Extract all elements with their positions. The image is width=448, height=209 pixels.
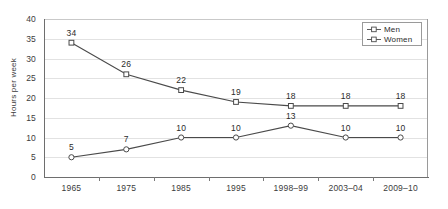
y-tick-label: 20 bbox=[0, 94, 36, 103]
y-tick-label: 5 bbox=[0, 153, 36, 162]
line-chart: Hours per week 4035302520151050 19651975… bbox=[0, 0, 448, 209]
gridline bbox=[45, 78, 427, 79]
x-tick-mark bbox=[99, 177, 100, 181]
gridline bbox=[45, 138, 427, 139]
x-tick-mark bbox=[209, 177, 210, 181]
x-tick-mark bbox=[263, 177, 264, 181]
y-axis-ticks: 4035302520151050 bbox=[0, 0, 42, 209]
point-label-women: 10 bbox=[388, 124, 414, 133]
point-label-women: 10 bbox=[223, 124, 249, 133]
point-label-women: 5 bbox=[58, 143, 84, 152]
point-label-men: 22 bbox=[168, 76, 194, 85]
point-label-men: 19 bbox=[223, 88, 249, 97]
x-tick-label: 1965 bbox=[44, 184, 99, 193]
gridline bbox=[45, 118, 427, 119]
x-tick-mark bbox=[318, 177, 319, 181]
point-label-women: 7 bbox=[113, 135, 139, 144]
x-tick-label: 1998–99 bbox=[263, 184, 318, 193]
y-tick-label: 25 bbox=[0, 74, 36, 83]
x-tick-mark bbox=[154, 177, 155, 181]
legend-label-women: Women bbox=[382, 35, 412, 44]
x-tick-label: 2003–04 bbox=[318, 184, 373, 193]
point-label-men: 18 bbox=[388, 92, 414, 101]
legend-item-women[interactable]: Women bbox=[366, 35, 418, 44]
point-label-men: 18 bbox=[278, 92, 304, 101]
gridline bbox=[45, 98, 427, 99]
point-label-women: 10 bbox=[333, 124, 359, 133]
point-label-men: 34 bbox=[58, 29, 84, 38]
legend-item-men[interactable]: Men bbox=[366, 25, 418, 34]
point-label-women: 10 bbox=[168, 124, 194, 133]
x-tick-label: 1985 bbox=[154, 184, 209, 193]
x-tick-label: 2009–10 bbox=[373, 184, 428, 193]
point-label-men: 26 bbox=[113, 60, 139, 69]
y-tick-label: 35 bbox=[0, 35, 36, 44]
y-tick-label: 30 bbox=[0, 55, 36, 64]
legend-label-men: Men bbox=[382, 25, 400, 34]
legend: Men Women bbox=[362, 22, 422, 46]
x-tick-label: 1995 bbox=[209, 184, 264, 193]
y-tick-label: 40 bbox=[0, 15, 36, 24]
x-axis-line bbox=[44, 177, 429, 178]
legend-marker-women-icon bbox=[366, 35, 382, 44]
gridline bbox=[45, 157, 427, 158]
y-tick-label: 10 bbox=[0, 134, 36, 143]
gridline bbox=[45, 59, 427, 60]
y-tick-label: 0 bbox=[0, 173, 36, 182]
y-tick-label: 15 bbox=[0, 114, 36, 123]
point-label-men: 18 bbox=[333, 92, 359, 101]
x-tick-mark bbox=[373, 177, 374, 181]
point-label-women: 13 bbox=[278, 112, 304, 121]
legend-marker-men-icon bbox=[366, 25, 382, 34]
x-tick-label: 1975 bbox=[99, 184, 154, 193]
gridline bbox=[45, 19, 427, 20]
